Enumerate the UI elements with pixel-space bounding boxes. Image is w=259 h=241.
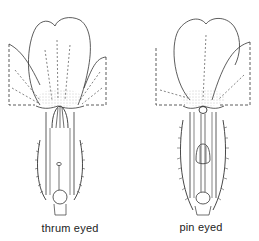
pin-anthers bbox=[196, 144, 210, 164]
pin-petal-back bbox=[174, 18, 240, 100]
pin-eyed-label: pin eyed bbox=[179, 221, 222, 233]
thrum-calyx bbox=[38, 140, 83, 200]
heterostyly-diagram: thrum eyed pin eyed bbox=[0, 0, 259, 241]
thrum-petal-left bbox=[9, 44, 35, 105]
thrum-eyed-label: thrum eyed bbox=[41, 222, 98, 234]
pin-style bbox=[201, 114, 205, 192]
diagram-canvas bbox=[0, 0, 259, 241]
pin-ovary bbox=[196, 192, 210, 204]
pin-calyx bbox=[180, 120, 225, 210]
thrum-flower bbox=[9, 18, 106, 215]
pin-flower bbox=[156, 18, 250, 215]
pin-petal-left bbox=[156, 48, 185, 105]
pin-stigma bbox=[199, 107, 207, 114]
thrum-ovary bbox=[53, 190, 67, 204]
